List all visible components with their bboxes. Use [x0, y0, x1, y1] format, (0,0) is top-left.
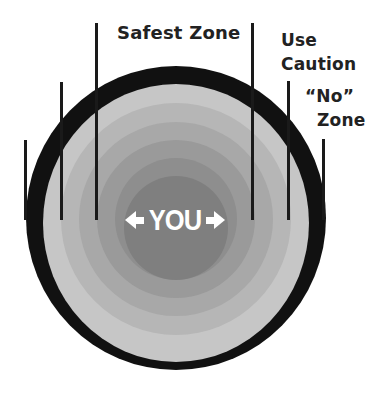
safest-left-line	[95, 23, 98, 220]
safest-zone-label: Safest Zone	[117, 24, 240, 42]
zone-diagram: Safest Zone Use Caution “No” Zone YOU	[0, 0, 385, 394]
safest-right-line	[251, 23, 254, 220]
arrow-left-icon	[125, 211, 136, 229]
no-zone-label-line1: “No”	[305, 88, 354, 105]
arrow-right-shaft	[206, 217, 214, 224]
use-caution-label-line2: Caution	[281, 56, 356, 73]
you-label: YOU	[149, 205, 202, 235]
no-zone-left-line	[24, 140, 27, 220]
use-caution-label-line1: Use	[281, 32, 317, 49]
caution-left-line	[60, 82, 63, 220]
caution-right-line	[287, 81, 290, 220]
no-zone-right-line	[322, 139, 325, 220]
arrow-left-shaft	[136, 217, 144, 224]
arrow-right-icon	[214, 211, 225, 229]
no-zone-label-line2: Zone	[317, 112, 365, 129]
you-marker: YOU	[118, 204, 232, 236]
